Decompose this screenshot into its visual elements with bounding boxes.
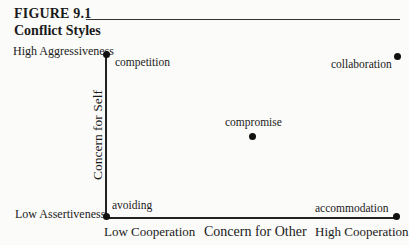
- compromise-dot: [249, 133, 256, 140]
- avoiding-dot: [103, 213, 110, 220]
- competition-dot: [103, 51, 110, 58]
- competition-label: competition: [115, 56, 170, 68]
- collaboration-dot: [394, 53, 401, 60]
- avoiding-label: avoiding: [112, 199, 152, 211]
- accommodation-dot: [393, 213, 400, 220]
- x-axis-title: Concern for Other: [204, 224, 307, 240]
- x-axis-low-label: Low Cooperation: [104, 224, 195, 240]
- compromise-label: compromise: [225, 116, 282, 128]
- figure-number: FIGURE 9.1: [14, 6, 91, 22]
- y-axis-low-label: Low Assertiveness: [15, 207, 105, 222]
- y-axis-high-label: High Aggressiveness: [13, 44, 114, 59]
- figure-title: Conflict Styles: [14, 23, 101, 39]
- x-axis-line: [105, 217, 397, 219]
- accommodation-label: accommodation: [315, 202, 388, 214]
- x-axis-high-label: High Cooperation: [315, 224, 409, 240]
- collaboration-label: collaboration: [331, 58, 392, 70]
- y-axis-title: Concern for Self: [90, 90, 106, 180]
- title-rule: [86, 19, 400, 20]
